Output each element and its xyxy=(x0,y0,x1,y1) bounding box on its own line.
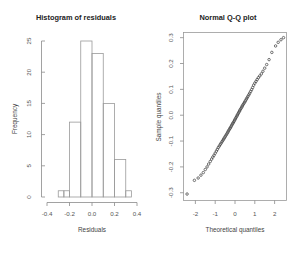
histogram-bar xyxy=(70,122,81,197)
histogram-bar xyxy=(64,191,70,197)
histogram-x-axis: -0.4-0.20.00.20.4 xyxy=(42,203,142,218)
qq-point xyxy=(263,67,266,70)
qq-x-tick-label: 1 xyxy=(253,210,257,217)
qq-point xyxy=(197,177,200,180)
qq-point xyxy=(207,163,210,166)
y-tick-label: 15 xyxy=(25,99,32,106)
qq-point xyxy=(274,45,277,48)
qq-point xyxy=(277,41,280,44)
qq-point xyxy=(193,179,196,182)
x-tick-group: -0.4-0.20.00.20.4 xyxy=(42,203,142,218)
histogram-bar xyxy=(81,41,92,197)
x-tick-label: -0.2 xyxy=(64,210,75,217)
qq-point xyxy=(271,51,274,54)
qq-y-tick-label: -0.1 xyxy=(167,135,174,146)
histogram-bar xyxy=(103,103,114,197)
histogram-bar xyxy=(58,191,64,197)
r-plot-figure: Histogram of residuals 0510152025 -0.4-0… xyxy=(0,0,304,272)
qqplot-xlabel: Theoretical quantiles xyxy=(206,226,265,234)
y-tick-label: 10 xyxy=(25,131,32,138)
x-tick-label: 0.4 xyxy=(133,210,142,217)
qq-x-tick-label: 0 xyxy=(233,210,237,217)
qq-point xyxy=(202,171,205,174)
x-tick-label: 0.0 xyxy=(88,210,97,217)
qqplot-svg: Normal Q-Q plot -0.3-0.2-0.10.00.10.20.3… xyxy=(152,0,304,272)
x-tick-label: 0.2 xyxy=(110,210,119,217)
qq-x-tick-label: -2 xyxy=(193,210,199,217)
histogram-svg: Histogram of residuals 0510152025 -0.4-0… xyxy=(0,0,152,272)
histogram-bar xyxy=(115,160,126,197)
qq-point xyxy=(206,166,209,169)
histogram-title: Histogram of residuals xyxy=(36,13,116,22)
qq-x-tick-group: -2-1012 xyxy=(193,201,277,218)
qq-point xyxy=(262,70,265,73)
y-tick-label: 0 xyxy=(25,195,32,199)
qq-point xyxy=(200,174,203,177)
qqplot-title: Normal Q-Q plot xyxy=(199,13,257,22)
qq-y-tick-label: 0.2 xyxy=(167,59,174,68)
qq-y-tick-group: -0.3-0.2-0.10.00.10.20.3 xyxy=(167,33,184,198)
histogram-xlabel: Residuals xyxy=(78,226,106,233)
qq-point xyxy=(280,38,283,41)
qqplot-ylabel: Sample quantiles xyxy=(155,92,163,141)
qq-point xyxy=(265,63,268,66)
qq-y-tick-label: 0.0 xyxy=(167,110,174,119)
x-tick-label: -0.4 xyxy=(42,210,53,217)
qqplot-points xyxy=(186,36,285,195)
qq-x-tick-label: -1 xyxy=(212,210,218,217)
qqplot-panel: Normal Q-Q plot -0.3-0.2-0.10.00.10.20.3… xyxy=(152,0,304,272)
qq-point xyxy=(186,193,189,196)
qq-y-tick-label: -0.3 xyxy=(167,187,174,198)
y-tick-group: 0510152025 xyxy=(25,37,45,199)
qq-point xyxy=(268,58,271,61)
histogram-bar xyxy=(126,191,132,197)
qq-x-tick-label: 2 xyxy=(273,210,277,217)
y-tick-label: 20 xyxy=(25,68,32,75)
y-tick-label: 5 xyxy=(25,164,32,168)
histogram-bars xyxy=(58,41,131,197)
histogram-bar xyxy=(92,53,103,197)
qq-y-tick-label: 0.1 xyxy=(167,85,174,94)
histogram-panel: Histogram of residuals 0510152025 -0.4-0… xyxy=(0,0,152,272)
qq-point xyxy=(260,73,263,76)
qq-point xyxy=(282,36,285,39)
qq-point xyxy=(204,168,207,171)
y-tick-label: 25 xyxy=(25,37,32,44)
histogram-ylabel: Frequency xyxy=(11,103,19,134)
histogram-y-axis: 0510152025 xyxy=(25,37,45,199)
qq-y-tick-label: 0.3 xyxy=(167,33,174,42)
qq-y-tick-label: -0.2 xyxy=(167,161,174,172)
